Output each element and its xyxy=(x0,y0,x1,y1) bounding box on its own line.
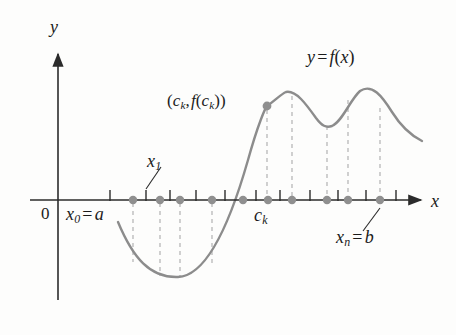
partition-dot xyxy=(323,196,331,204)
partition-dot xyxy=(239,196,247,204)
partition-dot xyxy=(129,196,137,204)
x0-equals-a-label: x0=a xyxy=(66,205,104,226)
ck-point-label: (ck, f(ck)) xyxy=(167,92,226,111)
xn-equals-b-label: xn=b xyxy=(336,228,374,249)
diagram-canvas xyxy=(0,0,456,335)
x1-label: x1 xyxy=(147,152,161,173)
ck-axis-label: ck xyxy=(254,206,268,227)
partition-dot xyxy=(208,196,216,204)
partition-dot xyxy=(156,196,164,204)
y-axis-label: y xyxy=(50,18,58,36)
partition-dot xyxy=(264,196,272,204)
partition-dot xyxy=(344,196,352,204)
x-axis-label: x xyxy=(431,192,439,210)
function-curve xyxy=(118,89,422,277)
function-label: y=f(x) xyxy=(307,48,354,66)
partition-dot xyxy=(376,196,384,204)
partition-dot xyxy=(288,196,296,204)
origin-label: 0 xyxy=(41,205,50,222)
riemann-sum-figure: y x 0 x0=a x1 ck xn=b (ck, f(ck)) y=f(x) xyxy=(0,0,456,335)
ck-highlight-dot xyxy=(263,102,272,111)
partition-dot xyxy=(176,196,184,204)
dashed-lines-group xyxy=(133,96,380,277)
